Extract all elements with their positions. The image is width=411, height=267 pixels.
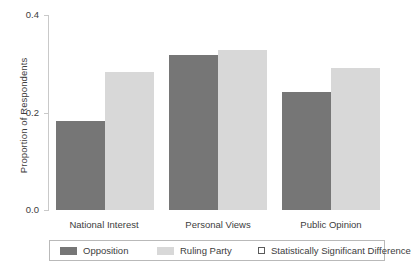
- bar-personal-views-opposition: [169, 55, 218, 210]
- bar-public-opinion-ruling-party: [331, 68, 380, 210]
- x-tick-label-public-opinion: Public Opinion: [300, 219, 361, 230]
- bar-national-interest-ruling-party: [105, 72, 154, 210]
- legend-label-ruling-party: Ruling Party: [180, 246, 232, 256]
- x-tick-label-national-interest: National Interest: [69, 219, 138, 230]
- legend-swatch-ruling-party-icon: [157, 247, 174, 255]
- plot-area: [48, 15, 388, 210]
- y-tick-label-2: 0.4: [9, 9, 39, 20]
- legend-swatch-hollow-square-icon: [258, 247, 265, 254]
- bar-personal-views-ruling-party: [218, 50, 267, 210]
- legend-item-ruling-party[interactable]: Ruling Party: [157, 241, 232, 260]
- legend-label-opposition: Opposition: [83, 246, 128, 256]
- legend-item-significant-difference[interactable]: Statistically Significant Difference: [254, 241, 411, 260]
- y-tick-label-0: 0.0: [9, 204, 39, 215]
- y-tick-mark-0: [44, 210, 49, 211]
- legend-label-significant-difference: Statistically Significant Difference: [271, 246, 411, 256]
- bar-public-opinion-opposition: [282, 92, 331, 210]
- legend: Opposition Ruling Party Statistically Si…: [49, 240, 385, 261]
- legend-swatch-opposition-icon: [60, 247, 77, 255]
- bar-national-interest-opposition: [56, 121, 105, 210]
- x-tick-label-personal-views: Personal Views: [185, 219, 250, 230]
- y-tick-label-1: 0.2: [9, 107, 39, 118]
- legend-item-opposition[interactable]: Opposition: [60, 241, 128, 260]
